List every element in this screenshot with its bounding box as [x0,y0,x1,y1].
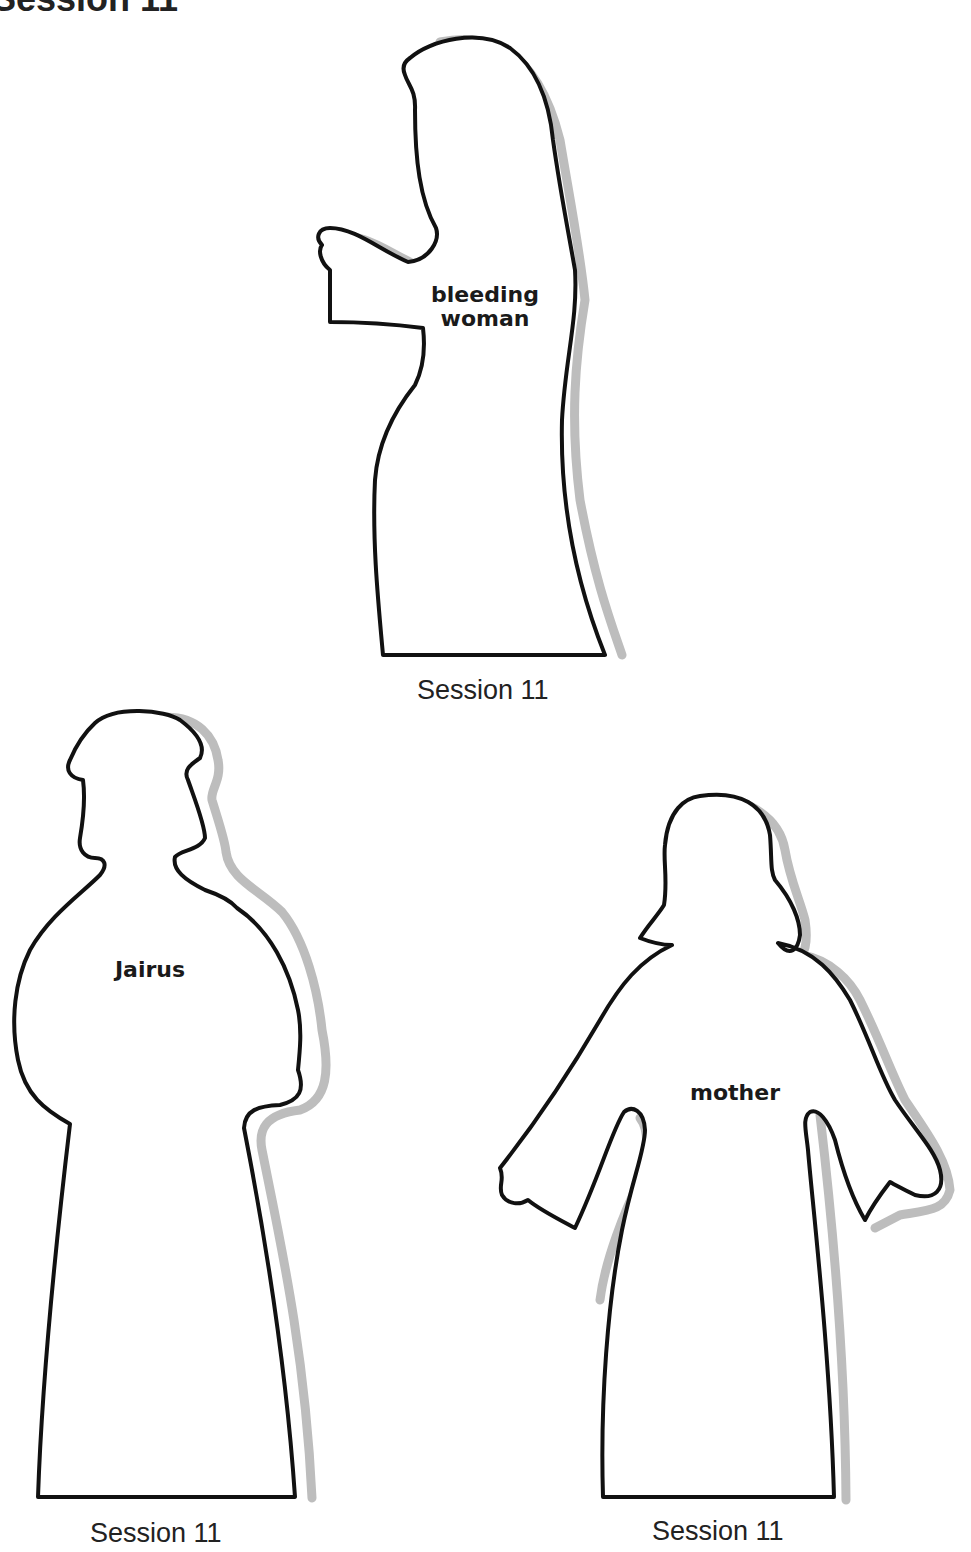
mother-label: mother [670,1081,800,1105]
mother-figure[interactable] [500,795,950,1500]
label-line: woman [410,307,560,331]
label-line: bleeding [410,283,560,307]
jairus-caption: Session 11 [90,1518,222,1549]
bleeding-woman-caption: Session 11 [417,675,549,706]
bleeding-woman-figure[interactable] [318,38,622,655]
label-line: mother [670,1081,800,1105]
jairus-figure[interactable] [14,711,326,1498]
label-line: Jairus [90,958,210,982]
mother-caption: Session 11 [652,1516,784,1547]
figure-cutouts [0,0,971,1552]
bleeding-woman-label: bleeding woman [410,283,560,331]
jairus-label: Jairus [90,958,210,982]
